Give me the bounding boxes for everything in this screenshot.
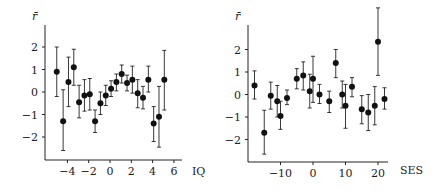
data-point [124,80,130,86]
x-tick-label: 0 [107,165,114,178]
data-point [97,100,103,106]
y-tick-label: 2 [234,44,241,57]
data-point [54,69,60,75]
data-point [268,93,274,99]
data-point [129,77,135,83]
chart-canvas: −2−1012−4−20246r̄IQ −2−1012−1001020r̄SES [0,0,439,191]
y-tick-label: −2 [22,131,38,144]
data-point [145,77,151,83]
y-tick-label: 0 [234,89,241,102]
x-tick-label: −2 [81,165,97,178]
data-point [65,79,71,85]
data-point [119,71,125,77]
x-tick-label: 20 [371,167,385,180]
iq-scatter-plot: −2−1012−4−20246r̄IQ [22,10,206,178]
data-point [307,88,313,94]
data-point [382,96,388,102]
data-point [359,106,365,112]
x-tick-label: 10 [339,167,353,180]
data-point [252,83,258,89]
data-point [339,92,345,98]
data-point [333,60,339,66]
y-tick-label: 1 [31,64,38,77]
data-point [140,95,146,101]
y-tick-label: 0 [31,86,38,99]
y-tick-label: −1 [22,109,38,122]
data-point [261,130,267,136]
data-point [151,121,157,127]
data-point [113,79,119,85]
x-axis-label: IQ [192,165,205,178]
data-point [103,92,109,98]
data-point [278,113,284,119]
x-tick-label: −10 [269,167,292,180]
x-tick-label: 0 [310,167,317,180]
data-point [372,103,378,109]
data-point [108,86,114,92]
data-point [343,103,349,109]
data-point [71,64,77,70]
data-point [60,118,66,124]
y-axis-label: r̄ [32,10,38,23]
y-tick-label: 2 [31,41,38,54]
y-tick-label: 1 [234,66,241,79]
y-tick-label: −2 [225,134,241,147]
data-point [135,90,141,96]
x-tick-label: −4 [59,165,75,178]
data-point [365,110,371,116]
x-axis-label: SES [400,164,423,177]
data-point [161,77,167,83]
x-tick-label: 2 [128,165,135,178]
y-tick-label: −1 [225,111,241,124]
data-point [87,91,93,97]
x-tick-label: 4 [149,165,156,178]
data-point [156,114,162,120]
data-point [284,95,290,101]
data-point [317,92,323,98]
data-point [81,92,87,98]
data-point [294,76,300,82]
data-point [349,84,355,90]
data-point [92,118,98,124]
data-point [76,99,82,105]
data-point [300,72,306,78]
ses-scatter-plot: −2−1012−1001020r̄SES [225,8,423,180]
x-tick-label: 6 [170,165,177,178]
y-axis-label: r̄ [235,10,241,23]
data-point [375,39,381,45]
data-point [310,76,316,82]
data-point [326,98,332,104]
